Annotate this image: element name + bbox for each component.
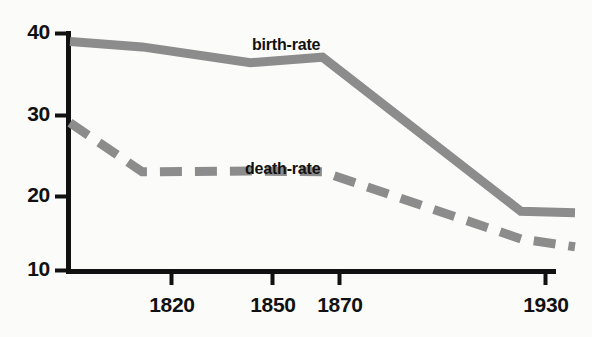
- x-axis-label-1820: 1820: [127, 293, 217, 317]
- series-label-death-rate: death-rate: [245, 160, 320, 178]
- series-label-birth-rate: birth-rate: [252, 36, 320, 54]
- line-chart: 40 30 20 10 1820 1850 1870 1930 birth-ra…: [0, 0, 592, 337]
- y-axis-label-20: 20: [4, 183, 50, 207]
- series-line-birth-rate: [70, 41, 575, 212]
- y-axis-label-40: 40: [4, 20, 50, 44]
- series-paths: [70, 41, 575, 246]
- axis-lines: [55, 31, 556, 285]
- y-axis-label-10: 10: [4, 257, 50, 281]
- y-axis-label-30: 30: [4, 102, 50, 126]
- x-axis-label-1870: 1870: [295, 293, 385, 317]
- x-axis-label-1930: 1930: [501, 293, 591, 317]
- series-line-death-rate: [70, 123, 575, 247]
